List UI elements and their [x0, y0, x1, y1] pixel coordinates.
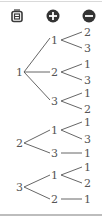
svg-text:3: 3 — [84, 42, 91, 55]
svg-text:1: 1 — [84, 193, 91, 206]
svg-text:2: 2 — [84, 177, 91, 190]
tree-root-3: 3 1 1 2 2 1 — [16, 161, 91, 206]
svg-text:2: 2 — [84, 103, 91, 116]
svg-text:3: 3 — [51, 147, 58, 160]
svg-text:3: 3 — [84, 133, 91, 146]
svg-text:3: 3 — [84, 74, 91, 87]
tree-diagram: 1 1 2 3 2 1 3 3 1 2 2 1 1 3 3 1 3 — [0, 0, 102, 222]
svg-text:2: 2 — [51, 66, 58, 79]
svg-text:3: 3 — [16, 181, 23, 194]
bottom-border — [0, 214, 102, 216]
svg-text:1: 1 — [51, 34, 58, 47]
svg-text:3: 3 — [51, 95, 58, 108]
svg-text:1: 1 — [84, 147, 91, 160]
tree-root-1: 1 1 2 3 2 1 3 3 1 2 — [16, 26, 91, 116]
svg-text:1: 1 — [84, 58, 91, 71]
svg-text:1: 1 — [51, 124, 58, 137]
svg-text:1: 1 — [16, 66, 23, 79]
svg-text:1: 1 — [84, 116, 91, 129]
svg-text:1: 1 — [51, 169, 58, 182]
svg-text:1: 1 — [84, 161, 91, 174]
tree-root-2: 2 1 1 3 3 1 — [16, 116, 91, 160]
svg-text:2: 2 — [84, 26, 91, 39]
svg-text:2: 2 — [16, 137, 23, 150]
svg-text:1: 1 — [84, 87, 91, 100]
svg-text:2: 2 — [51, 193, 58, 206]
